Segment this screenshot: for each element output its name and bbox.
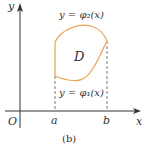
point-a-label: a: [51, 114, 58, 127]
upper-curve-label: y = φ₂(x): [58, 9, 104, 20]
lower-curve-label: y = φ₁(x): [58, 87, 104, 98]
origin-label: O: [8, 115, 17, 128]
x-axis-label: x: [136, 115, 143, 128]
axes: [5, 3, 141, 128]
region-label: D: [73, 49, 85, 64]
figure-caption: (b): [62, 133, 76, 144]
y-axis-label: y: [7, 0, 15, 13]
point-b-label: b: [103, 114, 110, 127]
region-diagram: D y = φ₂(x) y = φ₁(x) y x O a b (b): [0, 0, 149, 149]
